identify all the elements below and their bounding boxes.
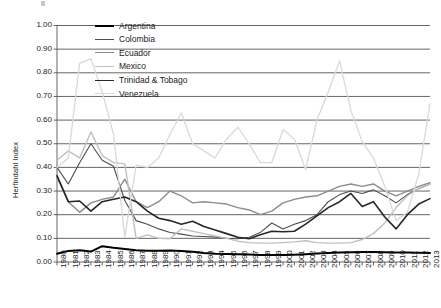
x-tick-label: 1994 <box>218 250 226 268</box>
x-tick-label: 2008 <box>377 250 385 268</box>
legend-line-swatch <box>95 52 114 53</box>
x-tick-label: 1988 <box>151 250 159 268</box>
x-tick-label: 1980 <box>60 250 68 268</box>
x-tick-label: 1987 <box>139 250 147 268</box>
legend-item-ecuador: Ecuador <box>95 46 213 60</box>
x-tick-label: 1989 <box>162 250 170 268</box>
x-tick-label: 2012 <box>422 250 430 268</box>
legend-label: Colombia <box>119 35 155 44</box>
x-tick-label: 1996 <box>241 250 249 268</box>
x-tick-label: 1990 <box>173 250 181 268</box>
legend-item-venezuela: Venezuela <box>95 87 213 101</box>
legend-line-swatch <box>95 39 114 40</box>
legend-label: Mexico <box>119 62 146 71</box>
legend-item-trinidad-tobago: Trinidad & Tobago <box>95 73 213 87</box>
legend-label: Trinidad & Tobago <box>119 76 188 85</box>
x-tick-label: 2002 <box>309 250 317 268</box>
x-tick-label: 1991 <box>185 250 193 268</box>
x-tick-label: 2009 <box>388 250 396 268</box>
x-tick-label: 1992 <box>196 250 204 268</box>
legend-item-argentina: Argentina <box>95 19 213 33</box>
legend-label: Argentina <box>119 22 155 31</box>
x-tick-label: 1983 <box>94 250 102 268</box>
x-tick-label: 2005 <box>343 250 351 268</box>
x-tick-label: 1985 <box>117 250 125 268</box>
x-tick-label: 2003 <box>320 250 328 268</box>
x-tick-label: 2001 <box>298 250 306 268</box>
legend-label: Venezuela <box>119 90 159 99</box>
x-tick-label: 1999 <box>275 250 283 268</box>
legend-label: Ecuador <box>119 49 151 58</box>
x-tick-label: 1981 <box>72 250 80 268</box>
x-tick-label: 1998 <box>264 250 272 268</box>
legend-line-swatch <box>95 93 114 94</box>
x-tick-label: 2000 <box>286 250 294 268</box>
legend-line-swatch <box>95 66 114 67</box>
chart-legend: ArgentinaColombiaEcuadorMexicoTrinidad &… <box>95 19 213 101</box>
x-tick-label: 1984 <box>105 250 113 268</box>
legend-line-swatch <box>95 80 114 81</box>
x-tick-label: 1995 <box>230 250 238 268</box>
x-tick-label: 1993 <box>207 250 215 268</box>
legend-line-swatch <box>95 25 114 27</box>
x-tick-label: 2011 <box>411 250 419 267</box>
x-tick-label: 2010 <box>399 250 407 268</box>
legend-item-colombia: Colombia <box>95 33 213 47</box>
x-tick-label: 2013 <box>433 250 441 268</box>
legend-item-mexico: Mexico <box>95 60 213 74</box>
x-tick-label: 2006 <box>354 250 362 268</box>
x-tick-label: 2004 <box>331 250 339 268</box>
x-tick-label: 1997 <box>252 250 260 268</box>
x-tick-label: 2007 <box>365 250 373 268</box>
x-tick-label: 1986 <box>128 250 136 268</box>
x-tick-label: 1982 <box>83 250 91 268</box>
